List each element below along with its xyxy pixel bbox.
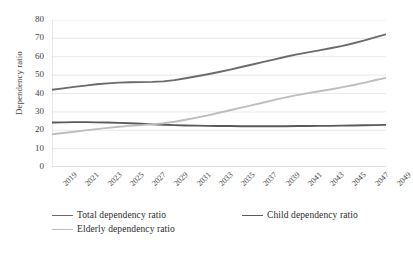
x-tick-label: 2047 — [373, 171, 390, 188]
legend-label: Total dependency ratio — [77, 210, 166, 220]
legend-label: Child dependency ratio — [267, 210, 358, 220]
legend-swatch-icon — [52, 215, 73, 216]
legend-swatch-icon — [52, 229, 73, 230]
chart-legend: Total dependency ratioChild dependency r… — [52, 210, 397, 250]
legend-item[interactable]: Elderly dependency ratio — [52, 224, 175, 234]
y-tick-label: 50 — [20, 70, 44, 79]
x-tick-label: 2043 — [329, 171, 346, 188]
x-tick-label: 2025 — [128, 171, 145, 188]
y-tick-label: 40 — [20, 89, 44, 98]
series-line-total-dependency-ratio — [52, 34, 386, 90]
y-axis-tick-labels: 01020304050607080 — [18, 0, 44, 253]
plot-svg — [52, 20, 386, 167]
series-line-child-dependency-ratio — [52, 122, 386, 126]
y-tick-label: 60 — [20, 52, 44, 61]
y-tick-label: 0 — [20, 162, 44, 171]
y-tick-label: 30 — [20, 107, 44, 116]
plot-area — [52, 20, 386, 167]
legend-label: Elderly dependency ratio — [77, 224, 175, 234]
x-tick-label: 2031 — [195, 171, 212, 188]
x-tick-label: 2039 — [284, 171, 301, 188]
legend-swatch-icon — [242, 215, 263, 216]
x-tick-label: 2041 — [307, 171, 324, 188]
y-tick-label: 10 — [20, 144, 44, 153]
x-tick-label: 2027 — [151, 171, 168, 188]
y-tick-label: 70 — [20, 33, 44, 42]
x-tick-label: 2019 — [62, 171, 79, 188]
x-tick-label: 2037 — [262, 171, 279, 188]
legend-item[interactable]: Child dependency ratio — [242, 210, 358, 220]
x-tick-label: 2029 — [173, 171, 190, 188]
x-tick-label: 2045 — [351, 171, 368, 188]
x-tick-label: 2049 — [396, 171, 413, 188]
x-tick-label: 2023 — [106, 171, 123, 188]
y-tick-label: 20 — [20, 125, 44, 134]
x-tick-label: 2035 — [240, 171, 257, 188]
x-tick-label: 2033 — [218, 171, 235, 188]
legend-item[interactable]: Total dependency ratio — [52, 210, 166, 220]
x-tick-label: 2021 — [84, 171, 101, 188]
y-tick-label: 80 — [20, 15, 44, 24]
